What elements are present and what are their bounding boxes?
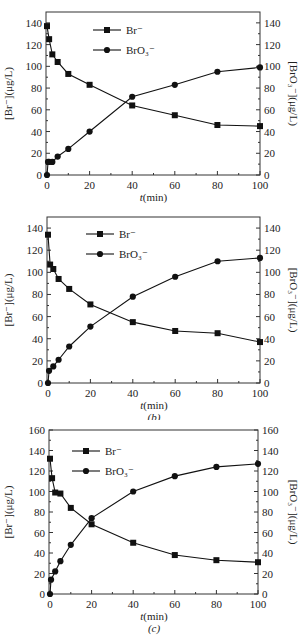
x-tick-label: 80 [211,598,223,610]
y-right-tick-label: 40 [264,126,276,138]
legend-label: BrO₃⁻ [119,248,148,260]
series-bromate [47,461,261,597]
square-marker-icon [172,328,178,334]
legend-square-icon [97,231,103,237]
y-right-tick-label: 120 [264,244,281,256]
y-left-tick-label: 20 [34,568,46,580]
square-marker-icon [56,276,62,282]
square-marker-icon [44,23,50,29]
legend-label: Br⁻ [119,228,136,240]
circle-marker-icon [48,577,54,583]
circle-marker-icon [55,153,61,159]
circle-marker-icon [89,515,95,521]
legend-square-icon [104,27,110,33]
y-left-tick-label: 20 [32,355,44,367]
y-left-tick-label: 60 [32,311,44,323]
series-bromide [45,232,263,345]
square-marker-icon [257,123,263,129]
y-left-axis-title: [Br⁻](μg/L) [2,485,15,538]
y-left-tick-label: 80 [34,506,46,518]
legend: Br⁻BrO₃⁻ [86,228,148,260]
circle-marker-icon [47,591,53,597]
circle-marker-icon [172,274,178,280]
y-right-tick-label: 140 [264,17,281,29]
x-tick-label: 0 [45,387,51,399]
circle-marker-icon [213,464,219,470]
y-right-tick-label: 60 [262,527,274,539]
x-axis: 020406080100 [45,379,269,399]
series-bromide [47,456,261,566]
circle-marker-icon [257,255,263,261]
y-left-tick-label: 120 [29,465,46,477]
circle-marker-icon [50,363,56,369]
x-tick-label: 40 [127,179,139,191]
y-left-tick-label: 40 [32,333,44,345]
square-marker-icon [49,475,55,481]
y-axes: 002020404060608080100100120120140140 [27,222,282,389]
panel-caption: (b) [148,411,161,420]
circle-marker-icon [172,82,178,88]
square-marker-icon [68,505,74,511]
y-right-tick-label: 0 [264,377,270,389]
y-left-tick-label: 100 [27,266,44,278]
circle-marker-icon [49,159,55,165]
circle-marker-icon [214,69,220,75]
square-marker-icon [47,456,53,462]
circle-marker-icon [87,128,93,134]
y-left-tick-label: 120 [27,244,44,256]
legend-label: BrO₃⁻ [126,44,155,56]
y-right-tick-label: 140 [264,222,281,234]
square-marker-icon [130,319,136,325]
circle-marker-icon [68,542,74,548]
legend-circle-icon [97,251,103,257]
y-left-tick-label: 160 [29,424,46,436]
x-tick-label: 60 [169,179,181,191]
y-right-tick-label: 0 [262,588,268,600]
square-marker-icon [52,490,58,496]
legend: Br⁻BrO₃⁻ [72,445,134,477]
square-marker-icon [87,82,93,88]
x-tick-label: 20 [86,598,98,610]
x-tick-label: 20 [85,387,97,399]
y-right-tick-label: 20 [264,355,276,367]
y-left-tick-label: 0 [40,588,46,600]
square-marker-icon [66,286,72,292]
x-axis: 020406080100 [47,590,267,610]
square-marker-icon [65,71,71,77]
square-marker-icon [89,521,95,527]
square-marker-icon [257,339,263,345]
series-bromate [44,64,263,178]
y-axes: 0020204040606080801001001201201401401601… [29,424,280,600]
legend-label: BrO₃⁻ [105,465,134,477]
x-tick-label: 0 [47,598,53,610]
y-right-tick-label: 20 [264,147,276,159]
chart-panel-c: 0204060801000020204040606080801001001201… [0,420,298,641]
square-marker-icon [255,559,261,565]
square-marker-icon [87,301,93,307]
y-right-tick-label: 120 [262,465,279,477]
y-right-tick-label: 100 [264,60,281,72]
chart-panel-b: 0204060801000020204040606080801001001201… [0,205,298,420]
y-right-tick-label: 140 [262,445,279,457]
circle-marker-icon [57,558,63,564]
y-right-tick-label: 80 [264,82,276,94]
y-right-tick-label: 100 [262,486,279,498]
circle-marker-icon [257,64,263,70]
circle-marker-icon [56,357,62,363]
x-tick-label: 80 [212,387,224,399]
square-marker-icon [46,36,52,42]
x-tick-label: 80 [212,179,224,191]
x-tick-label: 20 [84,179,96,191]
y-right-axis-title: [BrO₃⁻](μg/L) [287,61,298,126]
square-marker-icon [57,491,63,497]
circle-marker-icon [130,294,136,300]
x-axis: 020406080100 [44,171,269,191]
circle-marker-icon [129,94,135,100]
y-left-tick-label: 120 [26,39,43,51]
y-left-tick-label: 80 [32,288,44,300]
square-marker-icon [213,557,219,563]
circle-marker-icon [255,461,261,467]
panel-caption: (c) [148,622,161,635]
circle-marker-icon [130,488,136,494]
y-right-tick-label: 60 [264,311,276,323]
